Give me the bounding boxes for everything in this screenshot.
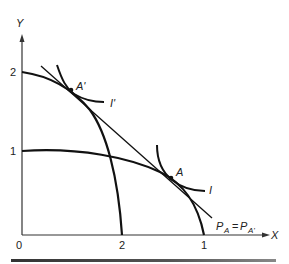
y-axis-label: Y: [16, 17, 24, 29]
production-frontier-2: [22, 150, 204, 235]
point-a-prime: [69, 88, 74, 93]
x-axis-arrow-icon: [262, 233, 270, 238]
point-a-label: A: [175, 166, 183, 178]
svg-text:P: P: [240, 220, 248, 232]
x-axis-label: X: [270, 229, 279, 241]
x-tick-2: 2: [119, 239, 125, 251]
svg-text:P: P: [216, 220, 224, 232]
axes: [20, 34, 271, 238]
indifference-i-prime-label: I': [110, 97, 116, 109]
price-line: [41, 66, 212, 218]
y-tick-1: 1: [10, 145, 16, 157]
y-axis-arrow-icon: [20, 34, 25, 42]
point-a: [169, 176, 174, 181]
price-line-label: P A = P A': [216, 220, 255, 235]
svg-text:A': A': [247, 226, 255, 235]
svg-text:=: =: [232, 220, 238, 232]
origin-label: 0: [16, 239, 22, 251]
production-frontier-1: [22, 72, 122, 235]
point-a-prime-label: A': [75, 80, 86, 92]
x-tick-1: 1: [201, 239, 207, 251]
bottom-rule: [11, 259, 276, 262]
diagram-canvas: Y X 2 1 0 2 1 A' A I' I P A = P A': [0, 0, 289, 264]
svg-text:A: A: [223, 226, 229, 235]
y-tick-2: 2: [10, 66, 16, 78]
indifference-i-label: I: [209, 184, 212, 196]
